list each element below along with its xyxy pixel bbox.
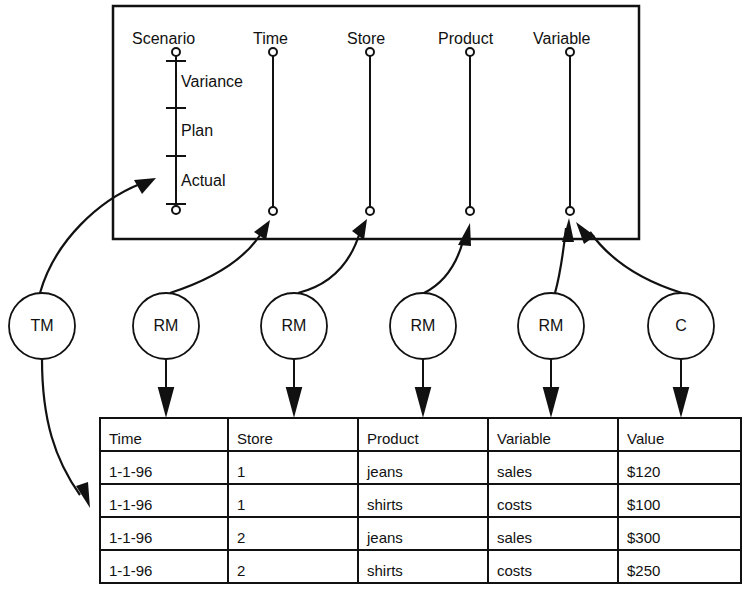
arrow-c-to-variable <box>590 232 682 293</box>
dimension-label-variable: Variable <box>533 30 591 48</box>
table-cell: 2 <box>228 550 358 583</box>
node-label-rm: RM <box>136 317 196 335</box>
scenario-member-variance: Variance <box>181 73 243 91</box>
down-arrow-icon <box>159 388 173 414</box>
dimension-label-scenario: Scenario <box>132 30 195 48</box>
table-cell: $250 <box>618 550 741 583</box>
down-arrow-icon <box>287 388 301 414</box>
table-cell: 1 <box>228 484 358 517</box>
table-cell: 1-1-96 <box>100 451 228 484</box>
table-cell: jeans <box>358 451 488 484</box>
arrowhead-icon <box>458 223 471 246</box>
time-axis <box>269 48 277 215</box>
arrow-tm-to-table <box>42 359 80 495</box>
node-label-c: C <box>651 317 711 335</box>
scenario-member-plan: Plan <box>181 122 213 140</box>
node-label-tm: TM <box>12 317 72 335</box>
scenario-member-actual: Actual <box>181 172 225 190</box>
table-cell: shirts <box>358 550 488 583</box>
arrow-rm-to-product <box>424 241 463 293</box>
arrow-rm-to-store <box>298 232 360 293</box>
node-label-rm: RM <box>264 317 324 335</box>
table-row: 1-1-96 1 jeans sales $120 <box>100 451 741 484</box>
table-row: 1-1-96 1 shirts costs $100 <box>100 484 741 517</box>
dimension-label-store: Store <box>347 30 385 48</box>
table-cell: costs <box>488 550 618 583</box>
table-cell: costs <box>488 484 618 517</box>
table-cell: $300 <box>618 517 741 550</box>
down-arrow-icon <box>544 388 558 414</box>
arrowhead-icon <box>576 222 595 244</box>
node-label-rm: RM <box>521 317 581 335</box>
down-arrow-icon <box>674 388 688 414</box>
store-axis <box>366 48 374 215</box>
product-axis <box>466 48 474 215</box>
column-header: Time <box>100 418 228 451</box>
table-cell: 1-1-96 <box>100 517 228 550</box>
column-header: Value <box>618 418 741 451</box>
column-header: Variable <box>488 418 618 451</box>
dimension-label-time: Time <box>253 30 288 48</box>
table-row: 1-1-96 2 jeans sales $300 <box>100 517 741 550</box>
fact-table: Time Store Product Variable Value 1-1-96… <box>99 417 742 584</box>
column-header: Store <box>228 418 358 451</box>
table-header-row: Time Store Product Variable Value <box>100 418 741 451</box>
table-cell: 2 <box>228 517 358 550</box>
table-cell: jeans <box>358 517 488 550</box>
table-cell: sales <box>488 451 618 484</box>
table-cell: sales <box>488 517 618 550</box>
dimension-label-product: Product <box>438 30 493 48</box>
table-cell: 1-1-96 <box>100 550 228 583</box>
table-cell: 1 <box>228 451 358 484</box>
table-cell: $100 <box>618 484 741 517</box>
table-cell: 1-1-96 <box>100 484 228 517</box>
column-header: Product <box>358 418 488 451</box>
node-label-rm: RM <box>393 317 453 335</box>
arrowhead-icon <box>562 218 574 242</box>
arrowhead-icon <box>254 220 270 240</box>
table-cell: $120 <box>618 451 741 484</box>
table-row: 1-1-96 2 shirts costs $250 <box>100 550 741 583</box>
table-cell: shirts <box>358 484 488 517</box>
arrowhead-icon <box>76 482 90 508</box>
variable-axis <box>566 48 574 215</box>
arrow-rm-to-time <box>170 232 262 293</box>
down-arrow-icon <box>416 388 430 414</box>
